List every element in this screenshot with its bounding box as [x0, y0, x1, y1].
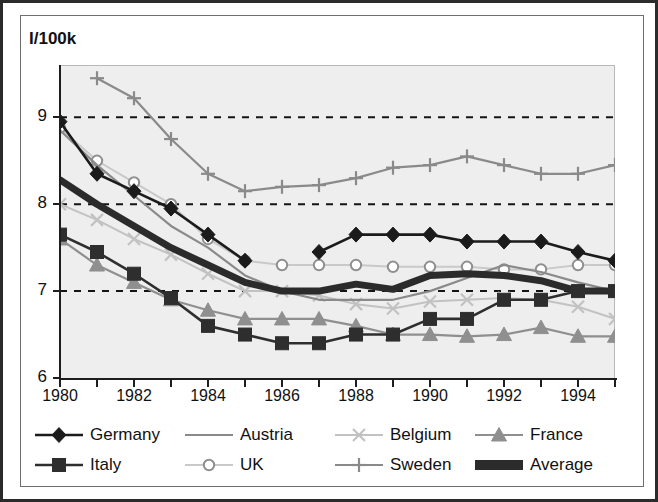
data-point-marker: [534, 234, 548, 249]
x-tick-1993: [540, 380, 542, 387]
legend-swatch-uk: [183, 455, 235, 475]
data-point-marker: [277, 260, 287, 270]
legend-item-italy[interactable]: Italy: [33, 452, 121, 478]
data-point-marker: [571, 167, 585, 181]
data-point-marker: [238, 253, 252, 268]
data-point-marker: [460, 149, 474, 163]
data-point-marker: [497, 234, 511, 249]
x-tick-label-1990: 1990: [402, 387, 458, 405]
x-tick-1991: [466, 380, 468, 387]
data-point-marker: [425, 262, 435, 272]
data-point-marker: [202, 319, 215, 332]
data-point-marker: [276, 337, 289, 350]
plot-area: [60, 65, 615, 378]
data-point-marker: [388, 262, 398, 272]
legend-label: Germany: [90, 425, 160, 445]
x-tick-1985: [244, 380, 246, 387]
data-point-marker: [91, 214, 103, 226]
legend-row-2: ItalyUKSwedenAverage: [33, 452, 633, 478]
y-axis-line: [59, 65, 61, 380]
legend-item-belgium[interactable]: Belgium: [333, 422, 451, 448]
data-point-marker: [386, 161, 400, 175]
series-line: [60, 122, 615, 261]
series-austria: [60, 130, 615, 299]
series-line: [60, 204, 615, 319]
legend-item-france[interactable]: France: [473, 422, 583, 448]
series-germany: [60, 114, 615, 268]
y-tick-label-6: 6: [13, 367, 47, 387]
x-tick-1988: [355, 380, 357, 387]
x-tick-1982: [133, 380, 135, 387]
x-tick-label-1984: 1984: [180, 387, 236, 405]
x-tick-1984: [207, 380, 209, 387]
legend-swatch-germany: [33, 425, 85, 445]
data-point-marker: [497, 158, 511, 172]
data-point-marker: [608, 158, 615, 172]
y-tick-8: [53, 203, 60, 205]
legend-item-germany[interactable]: Germany: [33, 422, 160, 448]
data-point-marker: [571, 245, 585, 260]
x-tick-1987: [318, 380, 320, 387]
legend-label: UK: [240, 455, 264, 475]
legend-label: France: [530, 425, 583, 445]
legend-swatch-austria: [183, 425, 235, 445]
x-tick-1994: [577, 380, 579, 387]
data-point-marker: [535, 293, 548, 306]
legend-swatch-france: [473, 425, 525, 445]
y-tick-label-8: 8: [13, 193, 47, 213]
x-tick-label-1988: 1988: [328, 387, 384, 405]
series-sweden: [90, 71, 615, 198]
legend-row-1: GermanyAustriaBelgiumFrance: [33, 422, 633, 448]
data-point-marker: [238, 184, 252, 198]
data-point-marker: [91, 246, 104, 259]
legend-swatch-sweden: [333, 455, 385, 475]
data-point-marker: [352, 458, 366, 472]
legend-item-sweden[interactable]: Sweden: [333, 452, 451, 478]
x-tick-label-1980: 1980: [32, 387, 88, 405]
series-belgium: [60, 198, 615, 325]
data-point-marker: [275, 180, 289, 194]
series-line: [60, 128, 615, 270]
legend-label: Average: [530, 455, 593, 475]
legend-label: Sweden: [390, 455, 451, 475]
legend-swatch-average: [473, 455, 525, 475]
x-tick-label-1982: 1982: [106, 387, 162, 405]
x-tick-1983: [170, 380, 172, 387]
data-point-marker: [349, 227, 363, 242]
y-tick-label-9: 9: [13, 106, 47, 126]
data-point-marker: [460, 234, 474, 249]
data-point-marker: [573, 260, 583, 270]
y-tick-label-7: 7: [13, 280, 47, 300]
y-tick-9: [53, 116, 60, 118]
data-point-marker: [609, 285, 616, 298]
data-point-marker: [90, 71, 104, 85]
chart-legend: GermanyAustriaBelgiumFrance ItalyUKSwede…: [33, 422, 633, 484]
chart-svg: [60, 65, 615, 378]
x-tick-1980: [59, 380, 61, 387]
screenshot-frame: I/100k 9876 1980198219841986198819901992…: [0, 0, 658, 502]
data-point-marker: [498, 293, 511, 306]
data-point-marker: [52, 428, 66, 443]
data-point-marker: [314, 260, 324, 270]
x-tick-1992: [503, 380, 505, 387]
x-tick-label-1986: 1986: [254, 387, 310, 405]
x-tick-1995: [614, 380, 616, 387]
legend-item-austria[interactable]: Austria: [183, 422, 293, 448]
data-point-marker: [313, 337, 326, 350]
data-point-marker: [423, 158, 437, 172]
legend-item-uk[interactable]: UK: [183, 452, 264, 478]
data-point-marker: [534, 167, 548, 181]
data-point-marker: [90, 258, 105, 272]
x-tick-1990: [429, 380, 431, 387]
data-point-marker: [424, 312, 437, 325]
x-axis-line: [59, 378, 617, 380]
x-tick-1989: [392, 380, 394, 387]
series-uk: [60, 123, 615, 275]
data-point-marker: [387, 328, 400, 341]
data-point-marker: [204, 460, 214, 470]
data-point-marker: [128, 233, 140, 245]
legend-item-average[interactable]: Average: [473, 452, 593, 478]
data-point-marker: [534, 320, 549, 334]
data-point-marker: [351, 260, 361, 270]
series-line: [60, 130, 615, 299]
